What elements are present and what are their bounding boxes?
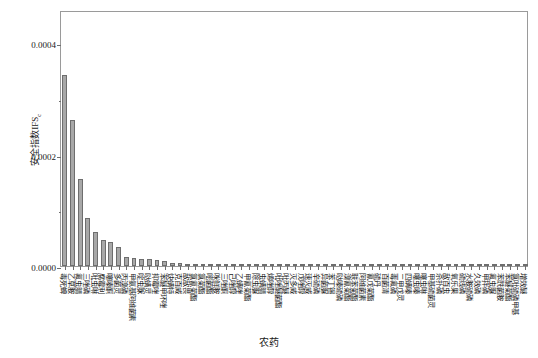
x-axis-category-label: 甲基硫菌灵 (428, 273, 435, 308)
x-axis-category-label: 抑霉唑 (151, 273, 158, 294)
bar (101, 240, 106, 266)
x-axis-category-label: 百菌清 (382, 273, 389, 294)
x-axis-tick (218, 266, 219, 270)
x-axis-tick (502, 266, 503, 270)
x-axis-tick (180, 266, 181, 270)
x-axis-tick (126, 266, 127, 270)
bar (62, 75, 67, 266)
x-axis-category-label: 氯菊酯 (198, 273, 205, 294)
x-axis-tick (341, 266, 342, 270)
x-axis-tick (402, 266, 403, 270)
x-axis-category-label: 噻嗪酮 (105, 273, 112, 294)
x-axis-tick (241, 266, 242, 270)
bar (70, 120, 75, 266)
x-axis-tick (326, 266, 327, 270)
x-axis-tick (203, 266, 204, 270)
bar (139, 259, 144, 267)
x-axis-category-label: 增效醚 (520, 273, 527, 294)
x-axis-tick (280, 266, 281, 270)
x-axis-category-label: 甲氰菊酯 (244, 273, 251, 301)
x-axis-category-label: 辛硫磷 (313, 273, 320, 294)
x-axis-tick (226, 266, 227, 270)
x-axis-category-label: 灭多威 (290, 273, 297, 294)
bar (93, 232, 98, 266)
x-axis-tick (295, 266, 296, 270)
x-axis-tick (119, 266, 120, 270)
x-axis-tick (80, 266, 81, 270)
x-axis-tick (134, 266, 135, 270)
x-axis-tick (272, 266, 273, 270)
y-axis-title-subscript: c (36, 114, 42, 117)
bar (85, 218, 90, 266)
x-axis-tick (517, 266, 518, 270)
x-axis-tick (494, 266, 495, 270)
x-axis-title: 农药 (0, 334, 538, 349)
bar (108, 242, 113, 266)
bar (124, 257, 129, 266)
y-axis-tick-label: 0.0002 (31, 152, 56, 161)
x-axis-tick (410, 266, 411, 270)
x-axis-tick (310, 266, 311, 270)
bar (78, 179, 83, 266)
x-axis-category-label: 阿维菌素 (359, 273, 366, 301)
x-axis-tick (234, 266, 235, 270)
x-axis-tick (372, 266, 373, 270)
x-axis-tick (441, 266, 442, 270)
x-axis-tick (264, 266, 265, 270)
x-axis-tick (349, 266, 350, 270)
plot-area: 0.00000.00020.0004 (60, 11, 528, 267)
y-axis-tick (57, 157, 61, 158)
y-axis-minor-tick (59, 101, 61, 102)
x-axis-tick (356, 266, 357, 270)
x-axis-tick (249, 266, 250, 270)
y-axis-minor-tick (59, 212, 61, 213)
x-axis-tick (510, 266, 511, 270)
x-axis-tick (172, 266, 173, 270)
y-axis-tick (57, 45, 61, 46)
x-axis-tick (464, 266, 465, 270)
x-axis-tick (65, 266, 66, 270)
x-axis-tick (257, 266, 258, 270)
x-axis-tick (287, 266, 288, 270)
x-axis-tick (195, 266, 196, 270)
x-axis-category-label: 甲氨基阿维菌素 (128, 273, 135, 321)
x-axis-category-label: 氧乐果 (451, 273, 458, 294)
bar (147, 259, 152, 266)
x-axis-tick (333, 266, 334, 270)
x-axis-category-label: 哒嗪硫磷 (336, 273, 343, 301)
x-axis-tick (525, 266, 526, 270)
x-axis-tick (479, 266, 480, 270)
x-axis-tick (418, 266, 419, 270)
bars-layer (61, 12, 527, 266)
y-axis-tick-label: 0.0004 (31, 41, 56, 50)
x-axis-tick (73, 266, 74, 270)
x-axis-tick (487, 266, 488, 270)
x-axis-tick (364, 266, 365, 270)
x-axis-tick (448, 266, 449, 270)
x-axis-tick (96, 266, 97, 270)
x-axis-tick (456, 266, 457, 270)
x-axis-tick (88, 266, 89, 270)
x-axis-tick (433, 266, 434, 270)
x-axis-tick (471, 266, 472, 270)
bar (116, 247, 121, 266)
x-axis-category-label: 烯唑醇 (267, 273, 274, 294)
x-axis-category-label: 三唑磷 (82, 273, 89, 294)
x-axis-category-label: 克百威 (175, 273, 182, 294)
x-axis-category-label: 四螨嗪 (405, 273, 412, 294)
x-axis-tick (211, 266, 212, 270)
bar (132, 258, 137, 266)
x-axis-tick (387, 266, 388, 270)
x-axis-tick (379, 266, 380, 270)
x-axis-tick (111, 266, 112, 270)
x-axis-tick (425, 266, 426, 270)
x-axis-tick (188, 266, 189, 270)
x-axis-tick (103, 266, 104, 270)
x-axis-tick (395, 266, 396, 270)
x-axis-category-label: 久效磷 (474, 273, 481, 294)
x-axis-tick (149, 266, 150, 270)
y-axis-tick (57, 268, 61, 269)
x-axis-tick (318, 266, 319, 270)
y-axis-tick-label: 0.0000 (31, 264, 56, 273)
x-axis-tick (303, 266, 304, 270)
